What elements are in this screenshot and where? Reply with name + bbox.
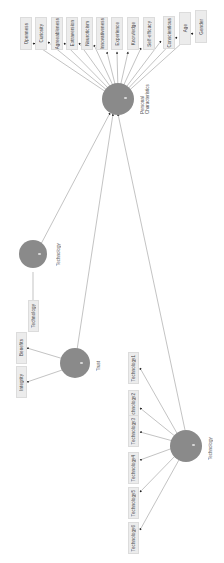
top-box-1-label: Openness xyxy=(24,23,29,44)
technology-node-label: Technology xyxy=(56,244,61,266)
trust-node-label: Trust xyxy=(96,355,101,371)
bottom-box-1[interactable]: Technology1 xyxy=(128,352,139,384)
top-box-1[interactable]: Openness xyxy=(20,17,32,50)
top-box-6[interactable]: Innovativeness xyxy=(96,17,108,50)
bottom-node-label: Technology xyxy=(208,432,213,460)
top-box-7-label: Experience xyxy=(115,22,120,46)
top-box-2-label: Curiosity xyxy=(39,24,44,42)
top-box-12[interactable]: Gender xyxy=(195,10,207,43)
bottom-box-5[interactable]: Technology5 xyxy=(128,487,139,519)
top-box-10[interactable]: Conscientious xyxy=(163,16,175,49)
top-box-5-label: Neuroticism xyxy=(85,21,90,46)
central-node-label: PersonalCharacteristics xyxy=(140,84,150,114)
top-box-10-label: Conscientious xyxy=(167,18,172,48)
central-node[interactable] xyxy=(102,83,134,115)
technology-box[interactable]: Technology xyxy=(28,300,39,332)
top-box-11[interactable]: Age xyxy=(179,12,191,45)
top-box-4-label: Extraversion xyxy=(70,20,75,46)
bottom-box-1-label: Technology1 xyxy=(131,355,136,381)
top-box-8[interactable]: Knowledge xyxy=(127,17,139,50)
bottom-box-3[interactable]: Technology3 xyxy=(128,415,139,447)
bottom-box-6-label: Technology6 xyxy=(131,525,136,551)
bottom-box-6[interactable]: Technology6 xyxy=(128,522,139,554)
diagram-canvas: Openness Curiosity Agreeableness Extrave… xyxy=(0,0,224,563)
top-box-9[interactable]: Self-efficacy xyxy=(143,17,155,50)
top-box-12-label: Gender xyxy=(199,19,204,35)
technology-box-label: Technology xyxy=(31,304,36,328)
trust-box-2[interactable]: Integrity xyxy=(16,366,27,398)
top-box-5[interactable]: Neuroticism xyxy=(81,17,93,50)
top-box-9-label: Self-efficacy xyxy=(147,21,152,47)
top-box-8-label: Knowledge xyxy=(131,22,136,45)
top-box-11-label: Age xyxy=(183,24,188,32)
bottom-box-4-label: Technology4 xyxy=(131,455,136,481)
technology-node[interactable] xyxy=(19,240,47,268)
trust-box-1[interactable]: Benefits xyxy=(16,332,27,364)
top-box-6-label: Innovativeness xyxy=(100,18,105,49)
top-box-3[interactable]: Agreeableness xyxy=(51,17,63,50)
edges-secondary xyxy=(27,272,180,530)
bottom-box-4[interactable]: Technology4 xyxy=(128,452,139,484)
trust-box-1-label: Benefits xyxy=(19,339,24,356)
trust-node[interactable] xyxy=(60,348,90,378)
bottom-box-5-label: Technology5 xyxy=(131,490,136,516)
top-box-2[interactable]: Curiosity xyxy=(35,17,47,50)
bottom-node[interactable] xyxy=(170,430,202,462)
top-box-3-label: Agreeableness xyxy=(55,18,60,49)
trust-box-2-label: Integrity xyxy=(19,374,24,391)
bottom-box-3-label: Technology3 xyxy=(131,418,136,444)
edges-into-central xyxy=(41,113,185,430)
top-box-4[interactable]: Extraversion xyxy=(66,17,78,50)
top-box-7[interactable]: Experience xyxy=(111,17,123,50)
